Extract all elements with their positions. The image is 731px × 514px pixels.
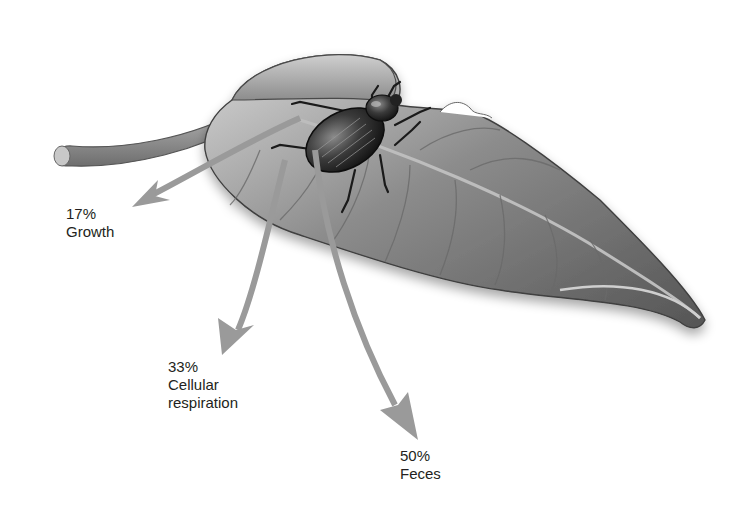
respiration-text: Cellular (168, 376, 238, 394)
respiration-label: 33% Cellular respiration (168, 358, 238, 412)
growth-label: 17% Growth (66, 205, 114, 241)
feces-text: Feces (400, 465, 441, 483)
respiration-percent: 33% (168, 358, 238, 376)
feces-percent: 50% (400, 447, 441, 465)
respiration-text-2: respiration (168, 394, 238, 412)
feces-label: 50% Feces (400, 447, 441, 483)
leaf-beetle-illustration (0, 0, 731, 514)
growth-text: Growth (66, 223, 114, 241)
growth-percent: 17% (66, 205, 114, 223)
